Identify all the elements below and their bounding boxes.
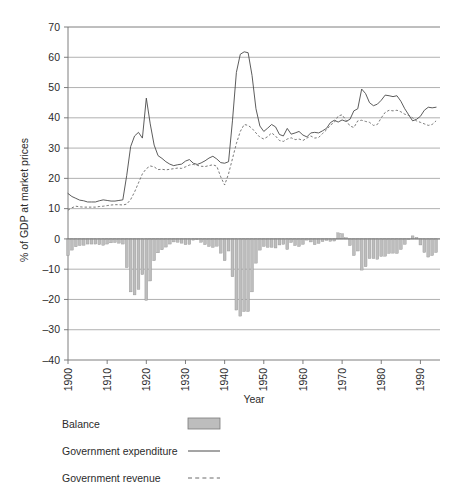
x-tick-label: 1940: [218, 368, 230, 392]
balance-bar: [141, 239, 144, 275]
x-tick-label: 1950: [257, 368, 269, 392]
balance-bar: [98, 239, 101, 245]
balance-bar: [231, 239, 234, 277]
y-tick-label: –20: [42, 293, 60, 305]
legend-label-government-expenditure: Government expenditure: [62, 445, 178, 457]
balance-bar: [114, 239, 117, 243]
balance-bar: [180, 239, 183, 243]
balance-bar: [282, 239, 285, 244]
balance-bar: [290, 239, 293, 243]
balance-bar: [121, 239, 124, 244]
legend-swatch-balance: [188, 418, 220, 429]
balance-bar: [106, 239, 109, 244]
y-tick-label: 60: [48, 51, 60, 63]
balance-bar: [153, 239, 156, 261]
balance-bar: [262, 239, 265, 247]
balance-bar: [223, 239, 226, 261]
balance-bar: [368, 239, 371, 259]
balance-bar: [176, 239, 179, 242]
balance-bar: [317, 239, 320, 244]
balance-bar: [168, 239, 171, 244]
balance-bar: [302, 239, 305, 244]
balance-bar: [427, 239, 430, 257]
balance-bar: [247, 239, 250, 312]
balance-bar: [161, 239, 164, 250]
x-tick-label: 1910: [101, 368, 113, 392]
y-tick-label: –10: [42, 263, 60, 275]
balance-bar: [313, 239, 316, 245]
balance-bar: [411, 236, 414, 239]
y-tick-label: 50: [48, 81, 60, 93]
x-tick-label: 1900: [62, 368, 74, 392]
x-tick-label: 1970: [336, 368, 348, 392]
balance-bar: [372, 239, 375, 259]
chart-figure: 706050403020100–10–20–30–40 190019101920…: [0, 0, 454, 490]
balance-bar: [133, 239, 136, 295]
balance-bar: [423, 239, 426, 253]
y-tick-label: 70: [48, 21, 60, 33]
balance-bar: [341, 234, 344, 239]
balance-bar: [392, 239, 395, 253]
balance-bar: [294, 239, 297, 246]
balance-bar: [94, 239, 97, 244]
balance-bar: [208, 239, 211, 247]
balance-bar: [90, 239, 93, 244]
balance-bar: [258, 239, 261, 250]
balance-bar: [67, 239, 70, 256]
balance-bar: [215, 239, 218, 246]
balance-bar: [266, 239, 269, 247]
balance-bar: [352, 239, 355, 256]
balance-bar: [360, 239, 363, 270]
balance-bar: [388, 239, 391, 254]
balance-bar: [164, 239, 167, 247]
balance-bar: [129, 239, 132, 292]
balance-bar: [71, 239, 74, 250]
balance-bar: [286, 239, 289, 250]
x-axis-title: Year: [243, 393, 265, 405]
y-tick-label: –30: [42, 323, 60, 335]
balance-bar: [255, 239, 258, 263]
balance-bar: [399, 239, 402, 250]
balance-bar: [349, 239, 352, 246]
balance-bar: [435, 239, 438, 253]
balance-bar: [211, 239, 214, 247]
balance-bar: [243, 239, 246, 312]
balance-bar: [227, 239, 230, 251]
balance-bar: [298, 239, 301, 247]
y-tick-label: 0: [54, 233, 60, 245]
balance-bar: [356, 239, 359, 251]
balance-bar: [274, 239, 277, 248]
balance-bar: [419, 239, 422, 245]
balance-bar: [337, 233, 340, 239]
balance-bar: [200, 239, 203, 242]
balance-bar: [384, 239, 387, 256]
balance-bar: [309, 239, 312, 242]
x-tick-label: 1980: [375, 368, 387, 392]
y-tick-label: 30: [48, 142, 60, 154]
balance-bar: [403, 239, 406, 244]
y-tick-label: 10: [48, 202, 60, 214]
balance-bar: [149, 239, 152, 281]
y-tick-label: –40: [42, 354, 60, 366]
balance-bar: [239, 239, 242, 316]
balance-bar: [364, 239, 367, 267]
balance-bar: [188, 239, 191, 244]
balance-bar: [125, 239, 128, 268]
legend-label-balance: Balance: [62, 418, 100, 430]
balance-bar: [172, 239, 175, 242]
y-axis-title: % of GDP at market prices: [18, 138, 30, 262]
chart-svg: 706050403020100–10–20–30–40 190019101920…: [0, 0, 454, 490]
balance-bar: [137, 239, 140, 290]
balance-bar: [219, 239, 222, 253]
balance-bar: [376, 239, 379, 259]
legend-label-government-revenue: Government revenue: [62, 472, 161, 484]
balance-bar: [86, 239, 89, 244]
balance-bar: [110, 239, 113, 243]
x-tick-label: 1930: [179, 368, 191, 392]
balance-bar: [102, 239, 105, 245]
balance-bar: [396, 239, 399, 254]
y-tick-label: 40: [48, 111, 60, 123]
balance-bar: [74, 239, 77, 247]
x-tick-label: 1960: [297, 368, 309, 392]
balance-bar: [251, 239, 254, 292]
